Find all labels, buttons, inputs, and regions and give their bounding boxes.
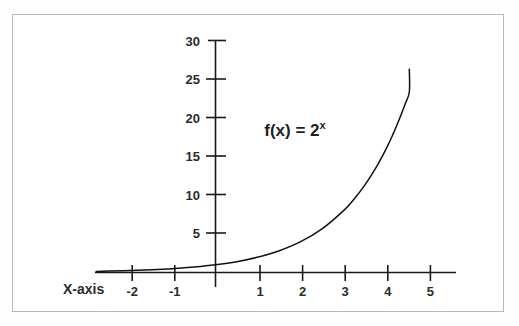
y-tick-label-10: 10 [186, 188, 200, 203]
y-axis-tick-labels: 5 10 15 20 25 30 [186, 34, 200, 241]
y-tick-label-30: 30 [186, 34, 200, 49]
x-tick-label--1: -1 [169, 284, 181, 299]
formula-base: f(x) = 2 [264, 121, 319, 140]
y-tick-label-25: 25 [186, 72, 200, 87]
exponential-curve [96, 69, 409, 271]
y-tick-label-20: 20 [186, 111, 200, 126]
x-tick-label--2: -2 [126, 284, 138, 299]
x-axis-tick-labels: -2 -1 1 2 3 4 5 [126, 284, 434, 299]
y-tick-label-5: 5 [193, 226, 200, 241]
y-tick-label-15: 15 [186, 149, 200, 164]
y-axis-group: 5 10 15 20 25 30 [186, 34, 226, 287]
x-tick-label-4: 4 [384, 284, 392, 299]
x-axis-title: X-axis [63, 281, 104, 297]
x-tick-label-5: 5 [427, 284, 434, 299]
svg-text:f(x) = 2x: f(x) = 2x [264, 119, 326, 140]
chart-plot-area: -2 -1 1 2 3 4 5 X-axis 5 [0, 0, 519, 326]
x-tick-label-1: 1 [256, 284, 263, 299]
formula-exponent: x [320, 119, 327, 131]
x-tick-label-3: 3 [342, 284, 349, 299]
formula-annotation: f(x) = 2x [264, 119, 326, 140]
x-tick-label-2: 2 [299, 284, 306, 299]
chart-figure: -2 -1 1 2 3 4 5 X-axis 5 [0, 0, 519, 326]
